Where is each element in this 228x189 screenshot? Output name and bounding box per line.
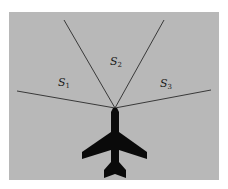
sector-diagram: S1S2S3 [0, 0, 228, 189]
diagram-graphic [0, 0, 228, 189]
sector-label-s2: S2 [110, 56, 122, 69]
sector-label-s1: S1 [58, 77, 70, 90]
sector-label-s3: S3 [160, 78, 172, 91]
